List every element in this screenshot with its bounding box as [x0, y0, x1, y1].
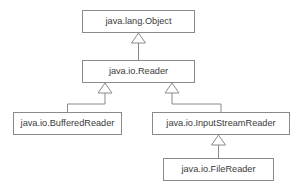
class-node-java-io-bufferedreader[interactable]: java.io.BufferedReader: [14, 113, 122, 135]
class-name-label: java.io.BufferedReader: [20, 118, 115, 128]
class-node-java-io-inputstreamreader[interactable]: java.io.InputStreamReader: [153, 113, 290, 135]
generalization-reader-to-object: [132, 33, 146, 60]
uml-diagram-canvas: java.lang.Object java.io.Reader java.io.…: [0, 0, 302, 193]
class-name-label: java.io.FileReader: [180, 164, 255, 174]
uml-class-diagram: java.lang.Object java.io.Reader java.io.…: [0, 0, 302, 193]
class-name-label: java.lang.Object: [105, 16, 172, 26]
class-node-java-lang-object[interactable]: java.lang.Object: [83, 11, 195, 33]
generalization-line: [172, 93, 221, 112]
hollow-triangle-arrowhead: [132, 33, 146, 43]
generalization-filereader-to-inputstreamreader: [212, 135, 226, 158]
hollow-triangle-arrowhead: [98, 83, 112, 93]
generalization-bufferedreader-to-reader: [68, 83, 113, 112]
class-name-label: java.io.Reader: [108, 66, 168, 76]
hollow-triangle-arrowhead: [165, 83, 179, 93]
generalization-inputstreamreader-to-reader: [165, 83, 221, 112]
hollow-triangle-arrowhead: [212, 135, 226, 145]
class-node-java-io-reader[interactable]: java.io.Reader: [83, 61, 195, 83]
class-node-java-io-filereader[interactable]: java.io.FileReader: [164, 159, 274, 181]
class-name-label: java.io.InputStreamReader: [165, 118, 275, 128]
generalization-line: [68, 93, 106, 112]
